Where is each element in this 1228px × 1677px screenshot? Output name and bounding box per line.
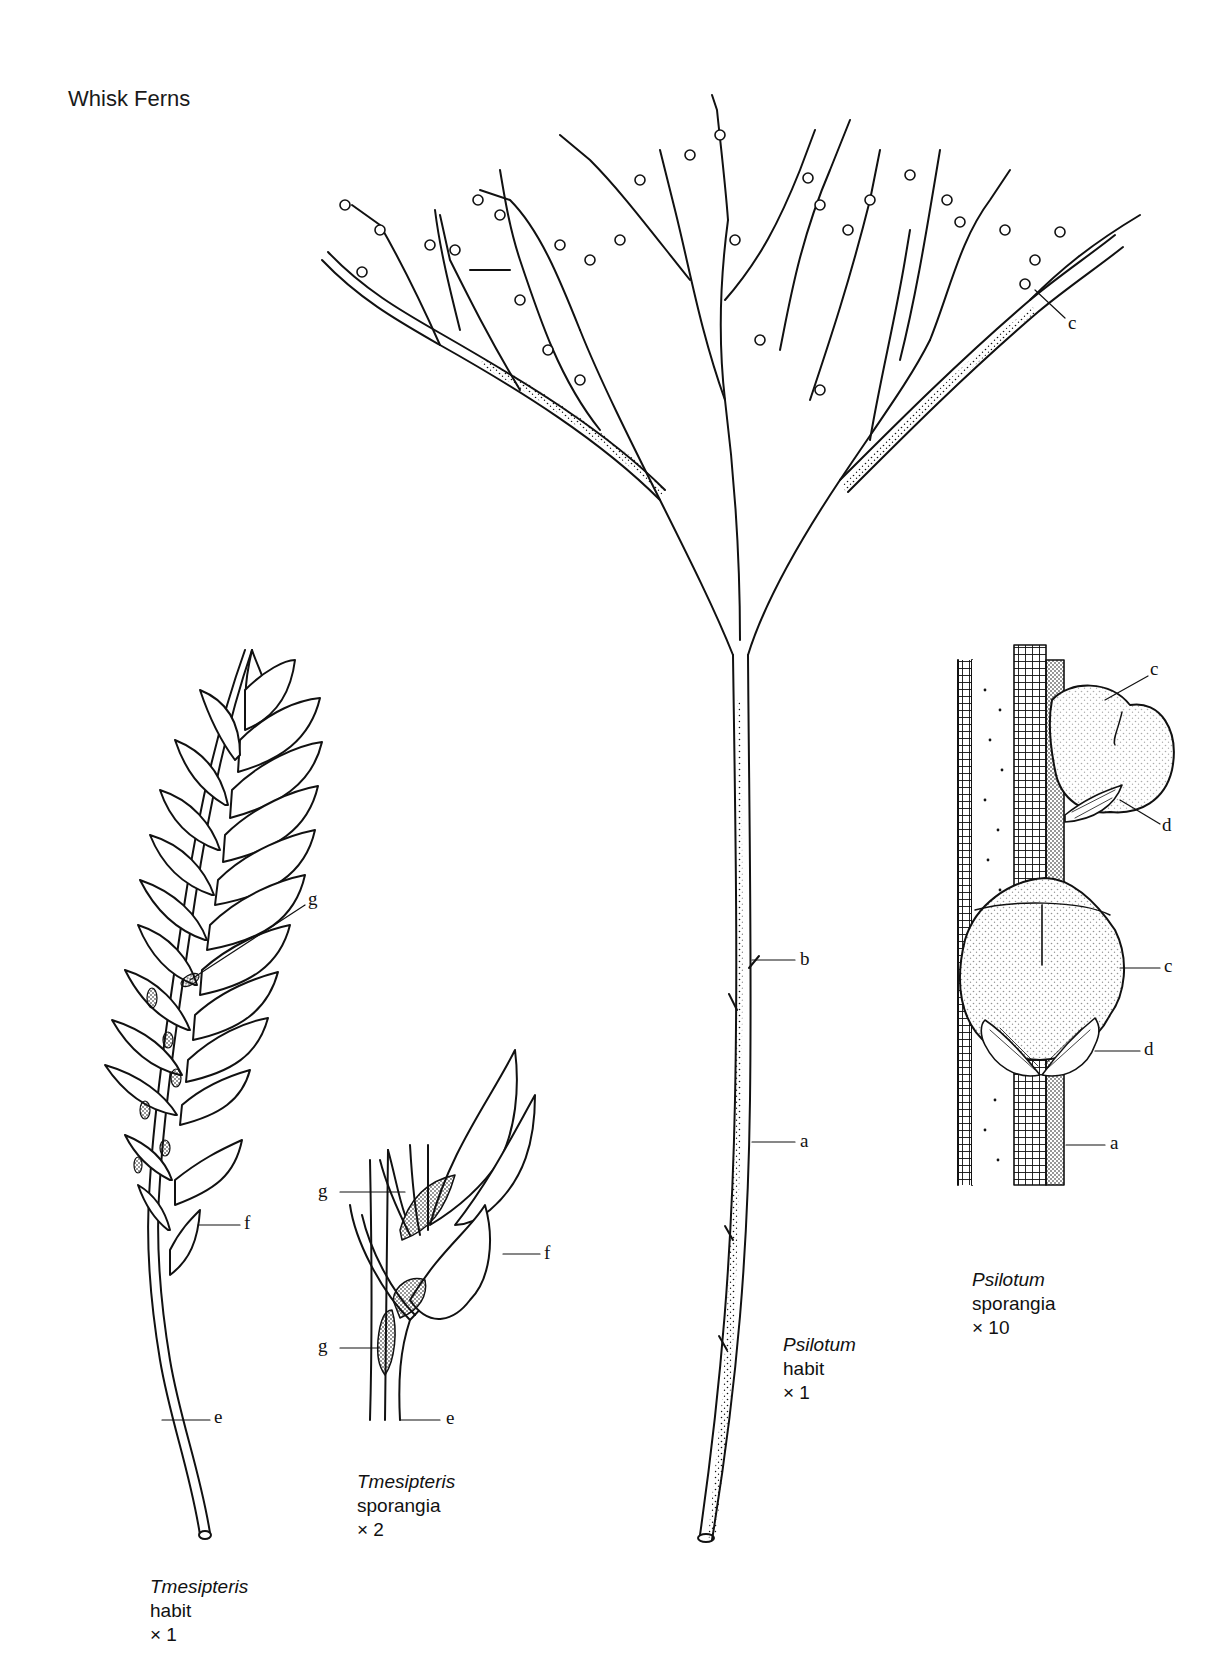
- caption-tmesipteris-sporangia: Tmesipteris sporangia × 2: [357, 1470, 455, 1542]
- caption-tmesipteris-habit: Tmesipteris habit × 1: [150, 1575, 248, 1647]
- caption-genus: Psilotum: [783, 1333, 856, 1357]
- caption-genus: Psilotum: [972, 1268, 1055, 1292]
- label-a-psilotum-sporangia: a: [1110, 1132, 1118, 1154]
- label-a-psilotum-habit: a: [800, 1130, 808, 1152]
- label-c-psilotum-habit: c: [1068, 312, 1076, 334]
- label-c-psilotum-sporangia-lower: c: [1164, 955, 1172, 977]
- label-f-tmesipteris-sporangia: f: [544, 1242, 550, 1264]
- caption-psilotum-sporangia: Psilotum sporangia × 10: [972, 1268, 1055, 1340]
- label-d-psilotum-sporangia-lower: d: [1144, 1038, 1154, 1060]
- caption-view: sporangia: [357, 1494, 455, 1518]
- label-f-tmesipteris-habit: f: [244, 1212, 250, 1234]
- caption-genus: Tmesipteris: [150, 1575, 248, 1599]
- label-d-psilotum-sporangia-upper: d: [1162, 814, 1172, 836]
- label-e-tmesipteris-habit: e: [214, 1406, 222, 1428]
- caption-view: sporangia: [972, 1292, 1055, 1316]
- label-g-tmesipteris-sporangia-upper: g: [318, 1180, 328, 1202]
- psilotum-sporangia-figure: [958, 645, 1174, 1185]
- caption-magnification: × 10: [972, 1316, 1055, 1340]
- caption-view: habit: [150, 1599, 248, 1623]
- caption-magnification: × 2: [357, 1518, 455, 1542]
- caption-genus: Tmesipteris: [357, 1470, 455, 1494]
- botanical-illustration: [0, 0, 1228, 1677]
- label-b-psilotum-habit: b: [800, 948, 810, 970]
- label-c-psilotum-sporangia-upper: c: [1150, 658, 1158, 680]
- caption-psilotum-habit: Psilotum habit × 1: [783, 1333, 856, 1405]
- caption-magnification: × 1: [150, 1623, 248, 1647]
- tmesipteris-sporangia-figure: [340, 1050, 540, 1420]
- label-g-tmesipteris-habit: g: [308, 888, 318, 910]
- label-e-tmesipteris-sporangia: e: [446, 1407, 454, 1429]
- label-g-tmesipteris-sporangia-lower: g: [318, 1335, 328, 1357]
- caption-magnification: × 1: [783, 1381, 856, 1405]
- caption-view: habit: [783, 1357, 856, 1381]
